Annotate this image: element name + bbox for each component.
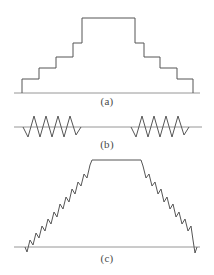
panel-c-caption: (c) bbox=[0, 252, 214, 264]
panel-a-chart bbox=[0, 0, 214, 100]
panel-b-burst-left bbox=[23, 116, 81, 137]
panel-b-caption: (b) bbox=[0, 138, 214, 150]
panel-c-chart bbox=[0, 152, 214, 262]
panel-a-waveform bbox=[22, 18, 193, 93]
panel-a-caption: (a) bbox=[0, 95, 214, 107]
panel-b-burst-right bbox=[131, 116, 189, 137]
figure-container: (a) (b) (c) bbox=[0, 0, 214, 275]
panel-c-waveform bbox=[25, 160, 197, 253]
